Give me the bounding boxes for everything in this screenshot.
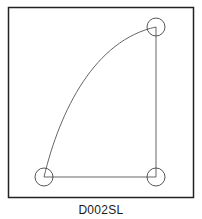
frame-border [9, 8, 194, 198]
curved-edge [44, 27, 156, 177]
diagram-canvas [0, 0, 202, 219]
figure-label: D002SL [0, 203, 202, 217]
